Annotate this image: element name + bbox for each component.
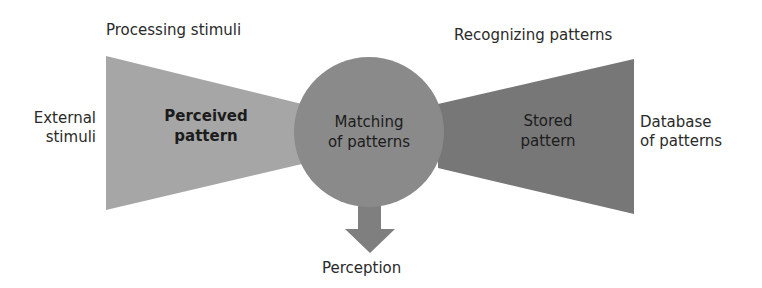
database-line2: of patterns <box>640 132 722 151</box>
matching-patterns-text: Matching of patterns <box>309 112 429 152</box>
perception-arrow <box>345 200 395 253</box>
stored-line2: pattern <box>493 131 603 151</box>
external-line1: External <box>24 109 96 128</box>
stored-pattern-text: Stored pattern <box>493 111 603 151</box>
matching-line1: Matching <box>309 112 429 132</box>
perception-label: Perception <box>322 259 401 278</box>
perceived-line1: Perceived <box>146 106 266 126</box>
recognizing-patterns-label: Recognizing patterns <box>454 26 612 45</box>
external-stimuli-label: External stimuli <box>24 109 96 147</box>
external-line2: stimuli <box>24 128 96 147</box>
processing-stimuli-label: Processing stimuli <box>106 21 241 40</box>
matching-line2: of patterns <box>309 132 429 152</box>
perceived-pattern-text: Perceived pattern <box>146 106 266 146</box>
perceived-line2: pattern <box>146 126 266 146</box>
database-line1: Database <box>640 113 722 132</box>
database-label: Database of patterns <box>640 113 722 151</box>
stored-line1: Stored <box>493 111 603 131</box>
